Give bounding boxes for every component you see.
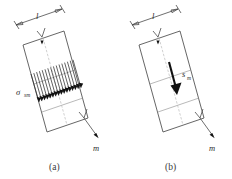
caption-panel-b: (b) <box>165 162 176 173</box>
panel-a: l <box>14 5 99 173</box>
figure-root: l <box>0 0 232 179</box>
dimension-line-a: l <box>14 5 65 29</box>
sigma-symbol: σ <box>16 87 21 97</box>
force-label-b: m <box>209 143 215 153</box>
shear-subscript: m <box>187 75 191 81</box>
top-notch-arrow-b <box>153 28 161 45</box>
force-arrow-a: m <box>79 109 99 153</box>
dimension-label-b: l <box>152 11 155 21</box>
shear-symbol: s <box>182 69 186 79</box>
top-notch-arrow-a <box>37 28 45 45</box>
caption-panel-a: (a) <box>49 162 60 173</box>
hatched-band-a <box>31 60 83 102</box>
force-arrow-b: m <box>195 109 215 153</box>
force-label-a: m <box>93 143 99 153</box>
block-outline-b <box>139 31 204 132</box>
stress-label-a: σ sm <box>16 87 30 98</box>
shear-arrow-b: s m <box>169 62 191 95</box>
dimension-line-b: l <box>130 5 181 29</box>
dimension-label-a: l <box>36 11 39 21</box>
panel-b: l s m m (b) <box>130 5 215 173</box>
block-outline-a <box>23 31 88 132</box>
sigma-subscript: sm <box>24 92 30 98</box>
